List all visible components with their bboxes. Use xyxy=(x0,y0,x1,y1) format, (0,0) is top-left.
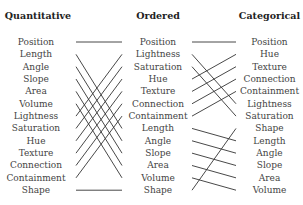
connector-line xyxy=(192,128,236,190)
connector-line xyxy=(192,67,236,92)
connector-line xyxy=(76,79,122,153)
connector-line xyxy=(76,104,122,166)
connector-line xyxy=(76,79,122,141)
mapping-lines xyxy=(0,0,303,205)
connector-line xyxy=(192,79,236,104)
connector-line xyxy=(192,128,236,140)
connector-line xyxy=(76,54,122,116)
connector-line xyxy=(76,54,122,128)
connector-line xyxy=(76,104,122,178)
connector-line xyxy=(76,116,122,178)
connector-line xyxy=(76,91,122,165)
connector-line xyxy=(192,178,236,190)
connector-line xyxy=(192,141,236,153)
connector-line xyxy=(76,91,122,153)
connector-line xyxy=(76,67,122,141)
connector-line xyxy=(192,91,236,116)
connector-line xyxy=(192,166,236,178)
connector-line xyxy=(76,67,122,129)
connector-line xyxy=(192,54,236,79)
